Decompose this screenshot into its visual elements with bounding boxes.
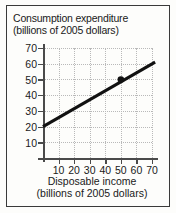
chart-figure: Consumption expenditure (billions of 200…: [0, 0, 176, 213]
x-axis-caption-line-1: Disposable income: [17, 175, 167, 187]
data-point-marker: [118, 76, 125, 83]
x-axis-caption-line-2: (billions of 2005 dollars): [17, 187, 167, 199]
consumption-function-line: [43, 62, 155, 126]
